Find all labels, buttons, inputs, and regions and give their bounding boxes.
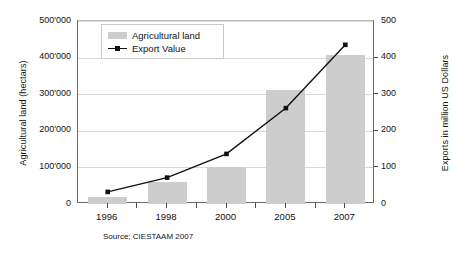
- legend-item-agricultural-land: Agricultural land: [108, 29, 217, 42]
- y-right-tick-label: 500: [381, 16, 421, 25]
- y-left-tick-label: 0: [11, 199, 71, 208]
- y-axis-right-title: Exports in million US Dollars: [440, 28, 450, 198]
- y-right-tick-mark: [374, 93, 378, 94]
- y-right-tick-mark: [374, 57, 378, 58]
- export-value-markers: [105, 43, 347, 195]
- x-axis-tick-mark: [226, 203, 227, 208]
- y-right-tick-mark: [374, 130, 378, 131]
- y-left-tick-label: 100'000: [11, 162, 71, 171]
- y-right-tick-label: 200: [381, 125, 421, 134]
- bar-swatch-icon: [108, 32, 127, 39]
- y-left-tick-label: 200'000: [11, 125, 71, 134]
- data-point-2000: [224, 152, 229, 157]
- data-point-2005: [284, 106, 289, 111]
- x-axis-tick-mark: [344, 203, 345, 208]
- x-axis-tick-label-1998: 1998: [136, 212, 196, 221]
- y-left-tick-label: 400'000: [11, 52, 71, 61]
- line-marker-icon: [108, 45, 127, 52]
- chart-container: Agricultural land (hectars) Exports in m…: [0, 0, 452, 259]
- y-left-tick-label: 500'000: [11, 16, 71, 25]
- legend-item-export-value: Export Value: [108, 42, 217, 55]
- x-axis-tick-mark: [107, 203, 108, 208]
- chart-legend: Agricultural land Export Value: [101, 24, 224, 59]
- y-right-tick-label: 0: [381, 199, 421, 208]
- legend-label-agricultural-land: Agricultural land: [132, 30, 200, 41]
- x-axis-tick-mark: [285, 203, 286, 208]
- legend-label-export-value: Export Value: [132, 43, 186, 54]
- x-axis-tick-label-2000: 2000: [196, 212, 256, 221]
- export-value-line: [108, 45, 346, 192]
- data-point-1998: [165, 175, 170, 180]
- x-axis-tick-label-2005: 2005: [255, 212, 315, 221]
- y-right-tick-label: 100: [381, 162, 421, 171]
- x-axis-tick-mark: [196, 203, 197, 208]
- y-right-tick-label: 400: [381, 52, 421, 61]
- y-left-tick-label: 300'000: [11, 89, 71, 98]
- data-point-2007: [343, 43, 348, 48]
- source-note: Source; CIESTAAM 2007: [103, 232, 193, 241]
- x-axis-tick-mark: [315, 203, 316, 208]
- y-right-tick-label: 300: [381, 89, 421, 98]
- x-axis-tick-mark: [166, 203, 167, 208]
- x-axis-tick-label-1996: 1996: [77, 212, 137, 221]
- y-right-tick-mark: [374, 166, 378, 167]
- x-axis-tick-label-2007: 2007: [314, 212, 374, 221]
- x-axis-tick-mark: [255, 203, 256, 208]
- x-axis-tick-mark: [136, 203, 137, 208]
- data-point-1996: [105, 190, 110, 195]
